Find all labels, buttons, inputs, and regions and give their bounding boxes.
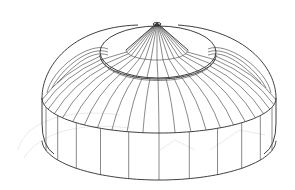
ground-shadow-lines (18, 113, 265, 158)
yurt-roof-cap (100, 26, 216, 81)
yurt-drawing (0, 0, 295, 190)
yurt-illustration: round tent / yurt line drawing (0, 0, 295, 190)
